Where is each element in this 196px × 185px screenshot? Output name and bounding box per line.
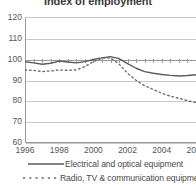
x-tick-label: 2000 [84,145,103,155]
chart-legend: Electrical and optical equipment Radio, … [0,157,196,185]
x-tick-label: 2002 [118,145,137,155]
y-tick-label: 90 [0,75,22,85]
legend-label-electrical-and-optical-equipment: Electrical and optical equipment [65,159,183,169]
x-axis-line [25,142,196,143]
series-line-electrical-and-optical-equipment [25,57,196,76]
series-layer [25,17,196,142]
y-tick-label: 110 [0,33,22,43]
x-tick-label: 1996 [16,145,35,155]
x-tick-label: 1998 [50,145,69,155]
gridline [26,143,196,144]
x-tick-label: 2004 [152,145,171,155]
y-tick-label: 100 [0,54,22,64]
legend-item-electrical-and-optical-equipment: Electrical and optical equipment [0,157,196,171]
y-tick-label: 70 [0,116,22,126]
x-tick-label: 2006 [187,145,196,155]
series-line-radio-tv-and-communication-equipment [25,58,196,103]
legend-item-radio-tv-and-communication-equipment: Radio, TV & communication equipment [0,171,196,185]
y-tick-label: 80 [0,95,22,105]
legend-key-dashed-line [22,173,60,183]
y-tick-label: 120 [0,12,22,22]
legend-key-solid-line [27,159,65,169]
chart-figure: Index of employment 12011010090807060 19… [0,0,196,185]
legend-label-radio-tv-and-communication-equipment: Radio, TV & communication equipment [60,173,196,183]
chart-title: Index of employment [0,0,196,7]
